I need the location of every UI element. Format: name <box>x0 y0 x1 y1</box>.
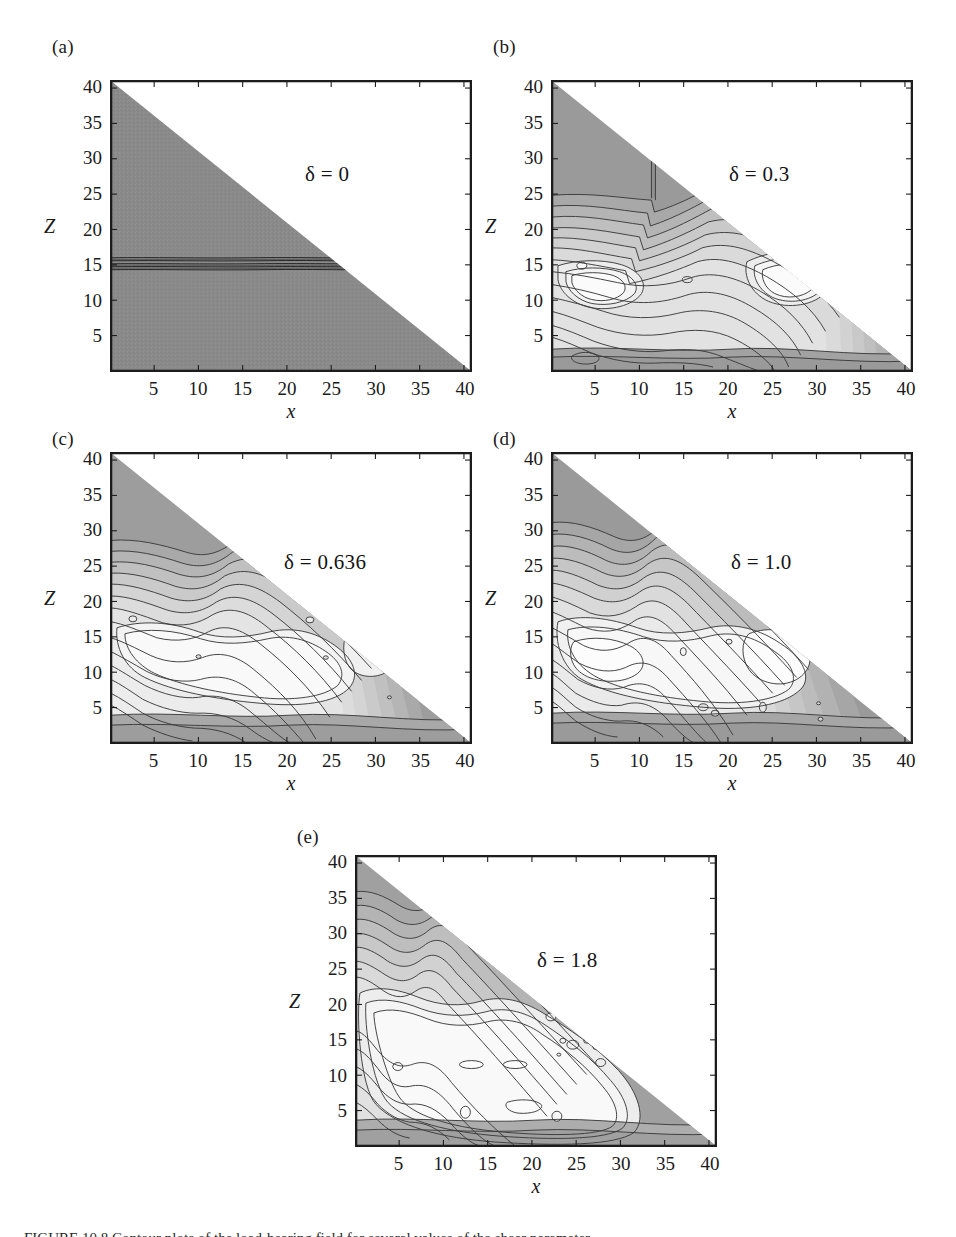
x-tick: 30 <box>611 1153 630 1175</box>
y-tick: 25 <box>524 555 543 577</box>
x-tick: 35 <box>852 750 871 772</box>
y-tick: 15 <box>83 626 102 648</box>
panel-a-tag: (a) <box>52 36 74 58</box>
panel-d-plot[interactable] <box>551 452 913 744</box>
y-tick: 35 <box>83 112 102 134</box>
y-tick: 30 <box>524 519 543 541</box>
x-tick: 30 <box>807 378 826 400</box>
y-tick: 25 <box>83 555 102 577</box>
panel-a-y-ticks: 40 35 30 25 20 15 10 5 <box>64 80 102 372</box>
panel-b-contour-svg <box>552 81 912 371</box>
x-tick: 40 <box>700 1153 719 1175</box>
y-tick: 10 <box>524 290 543 312</box>
y-tick: 40 <box>83 448 102 470</box>
y-tick: 10 <box>328 1065 347 1087</box>
panel-c-delta-annotation: δ = 0.636 <box>284 550 366 575</box>
panel-b-x-ticks: 5 10 15 20 25 30 35 40 <box>551 378 913 402</box>
y-tick: 5 <box>534 325 544 347</box>
y-tick: 35 <box>524 484 543 506</box>
y-tick: 10 <box>83 290 102 312</box>
panel-a-y-axis-title: Z <box>44 215 55 238</box>
y-tick: 5 <box>93 325 103 347</box>
panel-e-x-axis-title: x <box>532 1175 541 1198</box>
x-tick: 40 <box>896 750 915 772</box>
y-tick: 15 <box>524 254 543 276</box>
x-tick: 30 <box>366 750 385 772</box>
panel-e-contour-svg <box>356 856 716 1146</box>
panel-c-x-axis-title: x <box>287 772 296 795</box>
x-tick: 10 <box>188 750 207 772</box>
panel-d-y-ticks: 40 35 30 25 20 15 10 5 <box>505 452 543 744</box>
y-tick: 40 <box>83 76 102 98</box>
panel-b-tag: (b) <box>493 36 516 58</box>
y-tick: 15 <box>524 626 543 648</box>
panel-d-x-ticks: 5 10 15 20 25 30 35 40 <box>551 750 913 774</box>
x-tick: 15 <box>233 750 252 772</box>
y-tick: 10 <box>524 662 543 684</box>
x-tick: 10 <box>629 378 648 400</box>
panel-d-delta-annotation: δ = 1.0 <box>731 550 792 575</box>
y-tick: 30 <box>83 519 102 541</box>
panel-b-y-ticks: 40 35 30 25 20 15 10 5 <box>505 80 543 372</box>
x-tick: 35 <box>852 378 871 400</box>
x-tick: 25 <box>322 750 341 772</box>
panel-c-y-ticks: 40 35 30 25 20 15 10 5 <box>64 452 102 744</box>
y-tick: 15 <box>83 254 102 276</box>
y-tick: 15 <box>328 1029 347 1051</box>
x-tick: 20 <box>718 750 737 772</box>
x-tick: 15 <box>478 1153 497 1175</box>
y-tick: 35 <box>83 484 102 506</box>
panel-b-y-axis-title: Z <box>485 215 496 238</box>
x-tick: 35 <box>411 750 430 772</box>
panel-b-plot[interactable] <box>551 80 913 372</box>
x-tick: 5 <box>590 750 600 772</box>
panel-c-tag: (c) <box>52 428 74 450</box>
y-tick: 30 <box>328 922 347 944</box>
x-tick: 25 <box>322 378 341 400</box>
y-tick: 5 <box>338 1100 348 1122</box>
figure-caption: FIGURE 10.8 Contour plots of the load-be… <box>24 1228 934 1237</box>
y-tick: 20 <box>328 994 347 1016</box>
y-tick: 5 <box>93 697 103 719</box>
x-tick: 25 <box>567 1153 586 1175</box>
panel-e-y-axis-title: Z <box>289 990 300 1013</box>
x-tick: 5 <box>149 750 159 772</box>
panel-e: (e) Z 40 35 30 25 20 15 10 5 <box>245 800 760 1220</box>
x-tick: 10 <box>433 1153 452 1175</box>
x-tick: 25 <box>763 378 782 400</box>
y-tick: 25 <box>524 183 543 205</box>
panel-c-plot[interactable] <box>110 452 472 744</box>
panel-e-plot[interactable] <box>355 855 717 1147</box>
x-tick: 20 <box>718 378 737 400</box>
y-tick: 20 <box>83 591 102 613</box>
panel-a-plot[interactable] <box>110 80 472 372</box>
x-tick: 40 <box>896 378 915 400</box>
y-tick: 20 <box>524 219 543 241</box>
y-tick: 10 <box>83 662 102 684</box>
panel-a: (a) Z 40 35 30 25 20 15 10 5 <box>0 0 480 420</box>
y-tick: 25 <box>328 958 347 980</box>
x-tick: 15 <box>674 750 693 772</box>
y-tick: 35 <box>328 887 347 909</box>
y-tick: 5 <box>534 697 544 719</box>
x-tick: 5 <box>590 378 600 400</box>
panel-a-x-ticks: 5 10 15 20 25 30 35 40 <box>110 378 472 402</box>
x-tick: 10 <box>629 750 648 772</box>
x-tick: 15 <box>233 378 252 400</box>
panel-c-y-axis-title: Z <box>44 587 55 610</box>
panel-a-contour-svg <box>111 81 471 371</box>
x-tick: 20 <box>277 750 296 772</box>
y-tick: 35 <box>524 112 543 134</box>
panel-d-contour-svg <box>552 453 912 743</box>
y-tick: 40 <box>524 76 543 98</box>
panel-b-delta-annotation: δ = 0.3 <box>729 162 790 187</box>
y-tick: 25 <box>83 183 102 205</box>
x-tick: 10 <box>188 378 207 400</box>
panel-a-delta-annotation: δ = 0 <box>305 162 349 187</box>
x-tick: 35 <box>656 1153 675 1175</box>
panel-d-y-axis-title: Z <box>485 587 496 610</box>
panel-e-x-ticks: 5 10 15 20 25 30 35 40 <box>355 1153 717 1177</box>
panel-c-x-ticks: 5 10 15 20 25 30 35 40 <box>110 750 472 774</box>
panel-b: (b) Z 40 35 30 25 20 15 10 5 <box>441 0 956 420</box>
x-tick: 5 <box>149 378 159 400</box>
